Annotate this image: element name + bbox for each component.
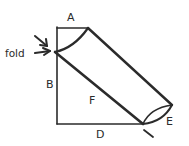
tube-upper-edge	[88, 28, 172, 105]
label-e: E	[166, 116, 173, 127]
near-end-curve	[55, 28, 88, 52]
label-b: B	[46, 79, 54, 90]
folded-tube-figure: A B D E F fold	[0, 0, 189, 146]
figure-linework	[0, 0, 189, 146]
label-a: A	[67, 12, 75, 23]
seam-f-line	[55, 52, 143, 124]
label-d: D	[96, 129, 104, 140]
far-end-tick-mark	[144, 130, 153, 137]
label-fold: fold	[5, 48, 25, 59]
label-f: F	[89, 95, 95, 106]
